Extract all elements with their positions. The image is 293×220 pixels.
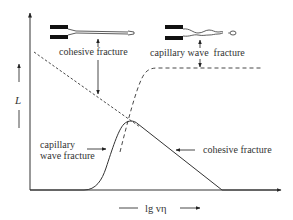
curve-label-capillary-line2: wave fracture: [40, 150, 95, 161]
capillary-wave-icon: [165, 25, 236, 40]
top-label-cohesive: cohesive fracture: [59, 46, 128, 57]
y-axis-label: L: [14, 94, 21, 106]
top-label-capillary: capillary wave fracture: [150, 47, 245, 58]
cohesive-fracture-icon: [50, 25, 134, 39]
x-axis-label: lg vη: [145, 203, 167, 214]
capillary-asymptote-dashed: [120, 68, 262, 152]
curve-label-capillary-line1: capillary: [40, 139, 75, 150]
fracture-diagram: L lg vη cohesive fracture capillary wave…: [0, 0, 293, 220]
curve-label-cohesive: cohesive fracture: [203, 144, 272, 155]
cohesive-asymptote-dashed: [34, 52, 140, 127]
